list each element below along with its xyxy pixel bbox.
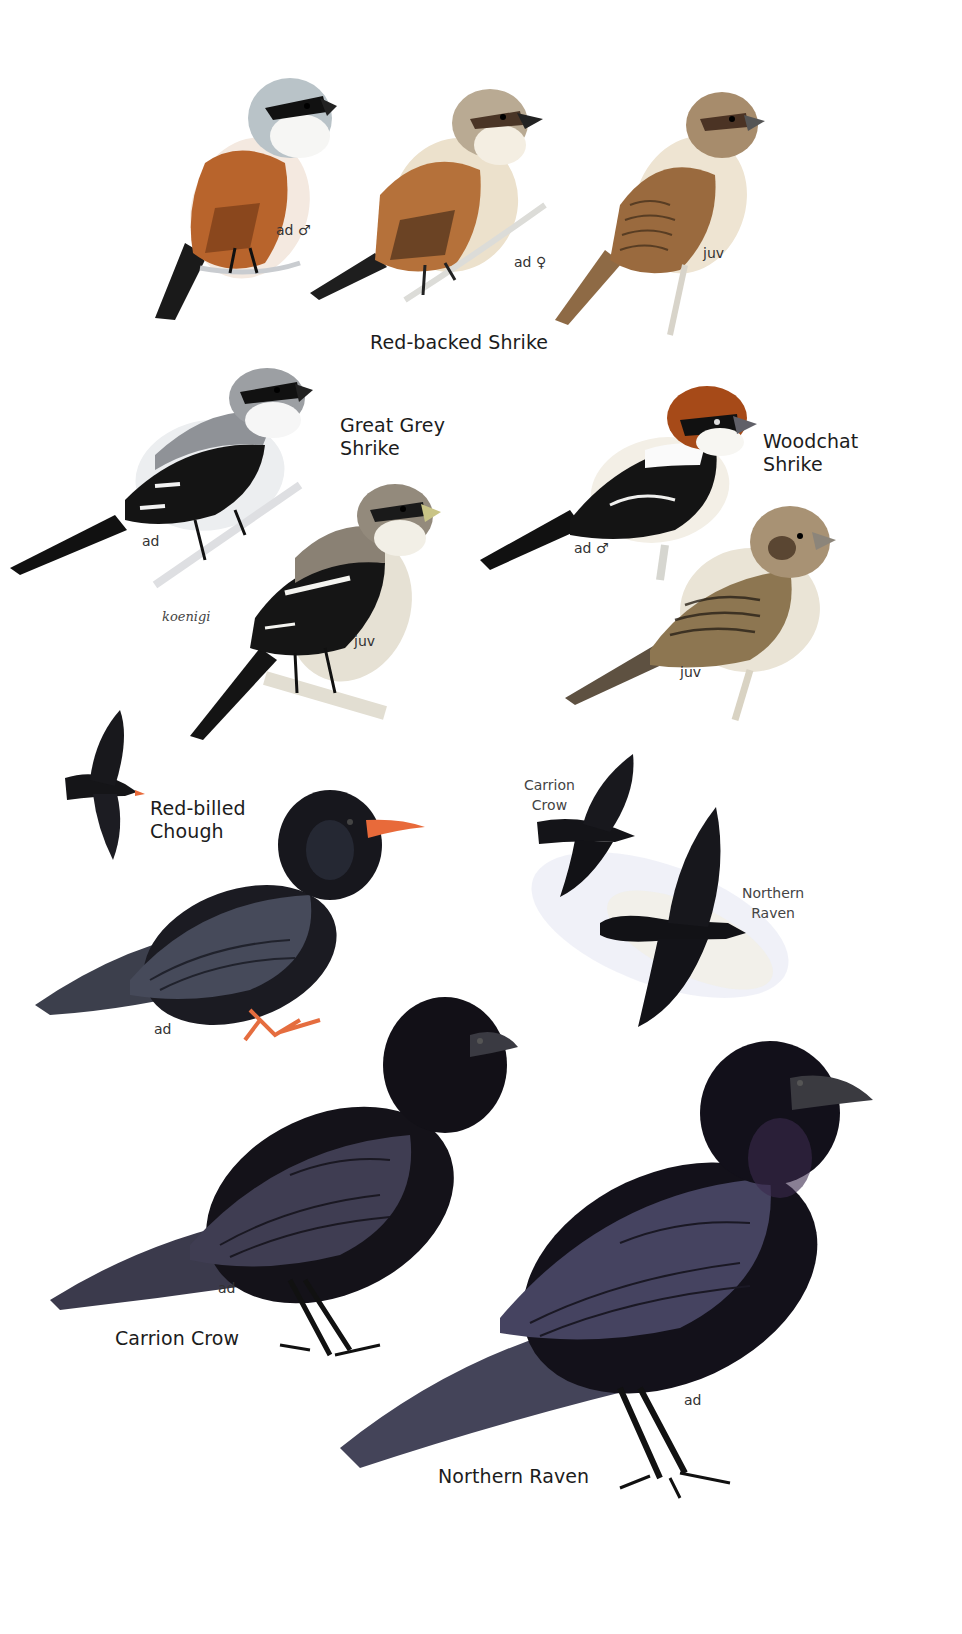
woodchat-shrike-species-title: Woodchat Shrike — [763, 430, 858, 476]
red-backed-shrike-juvenile-label: juv — [703, 245, 724, 261]
woodchat-shrike-juvenile-illustration — [560, 500, 840, 720]
red-backed-shrike-adult-female-illustration — [305, 85, 555, 310]
woodchat-shrike-juvenile-label: juv — [680, 664, 701, 680]
field-guide-plate: ad ♂ ad ♀ — [0, 0, 962, 1634]
great-grey-shrike-adult-label: ad — [142, 533, 159, 549]
northern-raven-species-title: Northern Raven — [438, 1465, 589, 1488]
red-backed-shrike-female-label: ad ♀ — [514, 254, 546, 270]
red-backed-shrike-juvenile-illustration — [550, 85, 770, 335]
northern-raven-flight-illustration — [598, 805, 748, 1030]
red-backed-shrike-species-title: Red-backed Shrike — [370, 331, 548, 354]
carrion-crow-flight-label: Carrion Crow — [524, 775, 575, 815]
carrion-crow-species-title: Carrion Crow — [115, 1327, 239, 1350]
great-grey-shrike-juvenile-label: juv — [354, 633, 375, 649]
great-grey-shrike-juvenile-illustration — [185, 478, 445, 743]
northern-raven-adult-illustration — [340, 1028, 875, 1503]
northern-raven-flight-label: Northern Raven — [742, 883, 804, 923]
great-grey-shrike-species-title: Great Grey Shrike — [340, 414, 445, 460]
northern-raven-adult-label: ad — [684, 1392, 701, 1408]
carrion-crow-adult-label: ad — [218, 1280, 235, 1296]
